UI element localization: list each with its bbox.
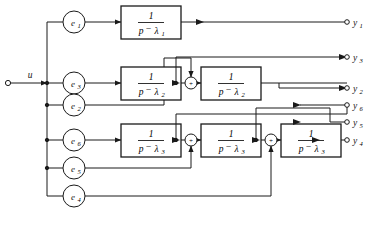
bus-junction-dot-e2	[45, 103, 48, 106]
b1-den-minus: −	[145, 24, 151, 34]
b2b-den-p: p	[218, 87, 224, 97]
b3b-den-minus: −	[225, 142, 231, 152]
sign-s2: +	[189, 137, 193, 145]
arrow-y6	[293, 102, 301, 108]
b2b-numerator: 1	[229, 72, 234, 82]
terminal-y5[interactable]	[345, 120, 350, 125]
input-terminal[interactable]	[5, 80, 10, 85]
node-sub-e1: 1	[78, 22, 81, 29]
node-label-e6: e	[71, 136, 75, 146]
b2b-den-minus: −	[225, 85, 231, 95]
output-label-y4: y	[352, 136, 358, 146]
b3b-numerator: 1	[229, 129, 234, 139]
block-diagram: u e 1 e 3 e 2 e 6 e 5 e 4 1 p	[0, 0, 380, 226]
output-sub-y1: 1	[360, 22, 363, 29]
sign-s1: +	[189, 80, 193, 88]
b3c-den-lambda: λ	[313, 144, 318, 154]
b2a-numerator: 1	[149, 72, 154, 82]
b3c-den-minus: −	[305, 142, 311, 152]
b3a-den-p: p	[138, 144, 144, 154]
b3a-numerator: 1	[149, 129, 154, 139]
b3c-den-p: p	[298, 144, 304, 154]
output-label-y6: y	[352, 101, 358, 111]
b3c-den-sub: 3	[321, 148, 326, 155]
terminal-y6[interactable]	[345, 103, 350, 108]
output-label-y5: y	[352, 118, 358, 128]
b3a-den-lambda: λ	[153, 144, 158, 154]
b2a-den-lambda: λ	[153, 87, 158, 97]
b3b-den-sub: 3	[241, 148, 246, 155]
input-distribution-bus	[45, 22, 63, 196]
output-sub-y3: 3	[359, 57, 364, 64]
b3b-den-p: p	[218, 144, 224, 154]
b3b-den-lambda: λ	[233, 144, 238, 154]
b2a-den-p: p	[138, 87, 144, 97]
sign-s3: +	[269, 137, 273, 145]
b1-den-lambda: λ	[153, 26, 158, 36]
b1-den-sub: 1	[162, 30, 165, 37]
terminal-y3[interactable]	[345, 55, 350, 60]
input-u-path	[5, 80, 47, 85]
node-label-e2: e	[71, 101, 75, 111]
output-sub-y5: 5	[360, 122, 364, 129]
output-sub-y2: 2	[360, 88, 364, 95]
b3c-numerator: 1	[309, 129, 314, 139]
node-label-e5: e	[71, 164, 75, 174]
b1-den-p: p	[138, 26, 144, 36]
bus-junction-dot-e6	[45, 138, 48, 141]
node-output-wires	[85, 22, 121, 140]
node-label-e1: e	[71, 18, 75, 28]
terminal-y4[interactable]	[345, 138, 350, 143]
output-sub-y6: 6	[360, 105, 364, 112]
output-label-y3: y	[352, 53, 358, 63]
b1-numerator: 1	[149, 11, 154, 21]
bus-junction-dot-e3	[45, 81, 48, 84]
bus-junction-dot-e5	[45, 166, 48, 169]
node-label-e4: e	[71, 192, 75, 202]
output-sub-y4: 4	[360, 140, 364, 147]
diagram-canvas: u e 1 e 3 e 2 e 6 e 5 e 4 1 p	[0, 0, 380, 226]
terminal-y2[interactable]	[345, 86, 350, 91]
output-label-y1: y	[352, 18, 358, 28]
output-label-y2: y	[352, 84, 358, 94]
b3a-den-sub: 3	[161, 148, 166, 155]
b3a-den-minus: −	[145, 142, 151, 152]
terminal-y1[interactable]	[345, 20, 350, 25]
input-label: u	[28, 70, 33, 80]
arrow-b1-out	[196, 19, 204, 25]
node-label-e3: e	[71, 79, 75, 89]
row1-output-path	[181, 19, 347, 25]
b2a-den-minus: −	[145, 85, 151, 95]
output-terminals: y 1 y 3 y 2 y 6 y 5 y 4	[345, 18, 364, 148]
b2b-den-lambda: λ	[233, 87, 238, 97]
node-sub-e3: 3	[77, 83, 82, 90]
